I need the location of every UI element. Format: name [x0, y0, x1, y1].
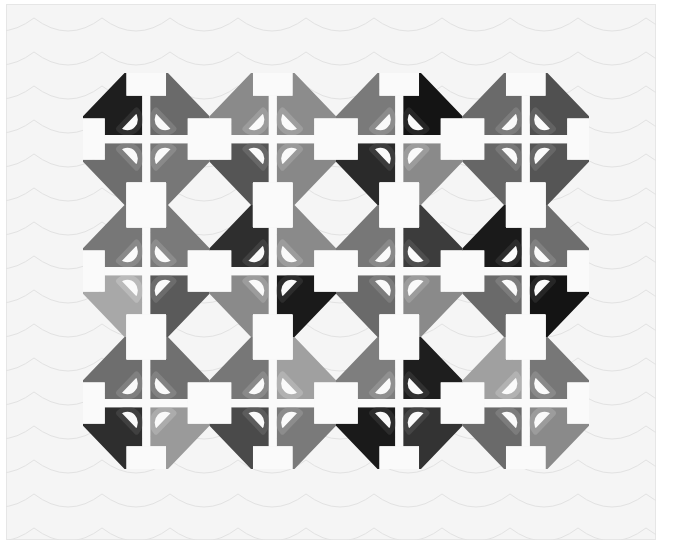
sashing-square [190, 119, 230, 159]
quilt-block-grid [6, 4, 656, 540]
setting-square [567, 250, 589, 291]
setting-square [83, 382, 105, 423]
quilt-photo [6, 4, 656, 540]
setting-square [506, 73, 546, 96]
setting-square [506, 446, 546, 469]
sashing-square [253, 315, 293, 359]
setting-square [83, 250, 105, 291]
setting-square [567, 382, 589, 423]
sashing-square [316, 251, 356, 291]
sashing-square [443, 251, 483, 291]
setting-square [253, 446, 293, 469]
sashing-square [443, 383, 483, 423]
setting-square [567, 118, 589, 159]
sashing-square [190, 251, 230, 291]
sashing-square [379, 183, 419, 227]
sashing-square [506, 315, 546, 359]
setting-square [379, 446, 419, 469]
sashing-square [253, 183, 293, 227]
setting-square [126, 446, 166, 469]
setting-square [379, 73, 419, 96]
setting-square [83, 118, 105, 159]
sashing-square [506, 183, 546, 227]
setting-square [126, 73, 166, 96]
sashing-square [379, 315, 419, 359]
sashing-square [316, 119, 356, 159]
setting-square [253, 73, 293, 96]
sashing-square [190, 383, 230, 423]
sashing-square [316, 383, 356, 423]
sashing-square [126, 315, 166, 359]
sashing-square [126, 183, 166, 227]
sashing-square [443, 119, 483, 159]
